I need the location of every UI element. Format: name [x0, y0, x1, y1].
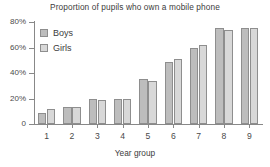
bar-boys-year-9: [241, 28, 250, 124]
x-tick-mark: [97, 124, 98, 128]
x-tick-label: 2: [62, 131, 82, 141]
bar-girls-year-8: [224, 30, 233, 124]
bar-boys-year-2: [63, 107, 72, 124]
bar-chart: Proportion of pupils who own a mobile ph…: [0, 0, 270, 167]
x-tick-label: 8: [214, 131, 234, 141]
y-tick-label: 60%: [0, 43, 26, 52]
y-tick-label: 80%: [0, 17, 26, 26]
legend-item-boys: Boys: [40, 25, 73, 40]
y-tick-label: 0: [0, 119, 26, 128]
y-tick-label: 40%: [0, 68, 26, 77]
x-tick-mark: [148, 124, 149, 128]
bar-girls-year-3: [98, 100, 107, 124]
bar-boys-year-1: [38, 113, 47, 124]
bar-girls-year-6: [174, 59, 183, 124]
chart-title: Proportion of pupils who own a mobile ph…: [0, 2, 270, 12]
legend-label-boys: Boys: [53, 28, 73, 38]
x-tick-label: 5: [138, 131, 158, 141]
bar-boys-year-3: [89, 99, 98, 125]
bar-girls-year-1: [47, 109, 56, 124]
x-tick-mark: [249, 124, 250, 128]
bar-boys-year-6: [165, 62, 174, 124]
bar-girls-year-5: [148, 81, 157, 124]
bar-boys-year-8: [215, 28, 224, 124]
x-tick-label: 7: [189, 131, 209, 141]
bar-girls-year-2: [72, 107, 81, 124]
y-tick-label: 20%: [0, 94, 26, 103]
bar-boys-year-4: [114, 99, 123, 125]
x-tick-label: 3: [87, 131, 107, 141]
x-tick-mark: [47, 124, 48, 128]
x-tick-label: 6: [163, 131, 183, 141]
x-tick-label: 4: [113, 131, 133, 141]
legend-item-girls: Girls: [40, 40, 73, 55]
x-tick-mark: [72, 124, 73, 128]
x-tick-mark: [224, 124, 225, 128]
bar-girls-year-9: [250, 28, 259, 124]
bar-boys-year-5: [139, 79, 148, 124]
bar-girls-year-4: [123, 99, 132, 125]
x-tick-label: 1: [37, 131, 57, 141]
x-axis-title: Year group: [0, 148, 270, 158]
legend-swatch-boys-icon: [40, 29, 48, 37]
legend-swatch-girls-icon: [40, 44, 48, 52]
bar-girls-year-7: [199, 45, 208, 124]
bar-boys-year-7: [190, 48, 199, 125]
x-tick-mark: [123, 124, 124, 128]
x-tick-mark: [173, 124, 174, 128]
y-tick-mark: [29, 124, 34, 125]
x-tick-mark: [199, 124, 200, 128]
legend-label-girls: Girls: [53, 43, 72, 53]
x-tick-label: 9: [239, 131, 259, 141]
legend: Boys Girls: [40, 25, 73, 55]
